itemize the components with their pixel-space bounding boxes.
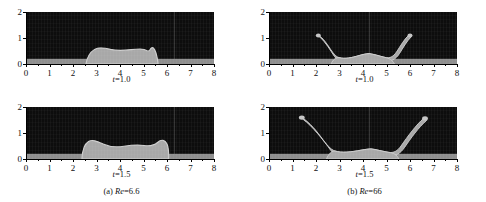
x-minor-tick xyxy=(304,159,305,161)
y-tick-label: 1 xyxy=(256,33,265,43)
y-tick-label: 0 xyxy=(256,154,265,164)
y-tick xyxy=(23,38,26,39)
time-label-a-t15: t=1.5 xyxy=(0,169,243,179)
x-minor-tick xyxy=(304,64,305,66)
x-minor-tick xyxy=(155,159,156,161)
x-minor-tick xyxy=(445,159,446,161)
x-minor-tick xyxy=(85,64,86,66)
y-axis-b-t15 xyxy=(269,107,270,160)
x-tick xyxy=(191,64,192,67)
x-tick xyxy=(457,64,458,67)
reynolds-symbol: Re xyxy=(359,186,368,196)
y-axis-b-t1 xyxy=(269,12,270,65)
x-minor-tick xyxy=(179,159,180,161)
x-minor-tick xyxy=(328,159,329,161)
y-tick xyxy=(23,107,26,108)
x-tick xyxy=(363,64,364,67)
x-minor-tick xyxy=(61,159,62,161)
x-minor-tick xyxy=(132,64,133,66)
x-minor-tick xyxy=(351,64,352,66)
plot-a-t15: 0 1 2 0 1 xyxy=(26,107,214,159)
interface-a-t1 xyxy=(26,12,214,64)
plot-a-t1: 0 1 2 0 1 xyxy=(26,12,214,64)
x-minor-tick xyxy=(375,64,376,66)
x-minor-tick xyxy=(422,159,423,161)
reynolds-symbol: Re xyxy=(115,186,124,196)
x-minor-tick xyxy=(398,159,399,161)
x-minor-tick xyxy=(281,159,282,161)
x-minor-tick xyxy=(38,64,39,66)
x-tick xyxy=(293,64,294,67)
x-minor-tick xyxy=(38,159,39,161)
plot-area-b-t15 xyxy=(269,107,457,159)
figure-container: 0 1 2 0 1 xyxy=(0,0,486,202)
time-label-a-t1: t=1.0 xyxy=(0,74,243,84)
x-tick xyxy=(410,64,411,67)
panel-b-t15: 0 1 2 0 1 xyxy=(243,99,486,189)
x-tick xyxy=(269,64,270,67)
plot-area-a-t1 xyxy=(26,12,214,64)
y-tick-label: 2 xyxy=(256,102,265,112)
panel-a-t1: 0 1 2 0 1 xyxy=(0,4,243,94)
x-tick xyxy=(97,64,98,67)
y-tick-label: 0 xyxy=(13,59,22,69)
x-tick xyxy=(269,159,270,162)
time-value: =1.0 xyxy=(358,74,373,84)
x-tick xyxy=(387,64,388,67)
subcaption-b: (b) Re=66 xyxy=(243,186,486,196)
x-tick xyxy=(144,64,145,67)
plot-area-a-t15 xyxy=(26,107,214,159)
time-value: =1.5 xyxy=(358,169,373,179)
y-tick xyxy=(266,133,269,134)
x-tick xyxy=(410,159,411,162)
time-label-b-t15: t=1.5 xyxy=(243,169,486,179)
x-minor-tick xyxy=(108,64,109,66)
y-tick xyxy=(266,107,269,108)
interface-b-t1 xyxy=(269,12,457,64)
x-minor-tick xyxy=(85,159,86,161)
x-tick xyxy=(120,64,121,67)
x-tick xyxy=(363,159,364,162)
subcaption-a: (a) Re=6.6 xyxy=(0,186,243,196)
x-tick xyxy=(26,159,27,162)
x-minor-tick xyxy=(155,64,156,66)
x-minor-tick xyxy=(179,64,180,66)
x-minor-tick xyxy=(398,64,399,66)
reynolds-value: =6.6 xyxy=(124,186,139,196)
panel-a-t15: 0 1 2 0 1 xyxy=(0,99,243,189)
x-minor-tick xyxy=(281,64,282,66)
y-axis-a-t1 xyxy=(26,12,27,65)
y-tick-label: 1 xyxy=(13,33,22,43)
x-tick xyxy=(191,159,192,162)
x-tick xyxy=(144,159,145,162)
time-label-b-t1: t=1.0 xyxy=(243,74,486,84)
x-tick xyxy=(167,159,168,162)
subcaption-tag: (a) xyxy=(104,186,116,196)
x-minor-tick xyxy=(375,159,376,161)
x-tick xyxy=(167,64,168,67)
x-minor-tick xyxy=(202,64,203,66)
y-tick-label: 2 xyxy=(13,7,22,17)
x-minor-tick xyxy=(351,159,352,161)
y-tick xyxy=(23,133,26,134)
x-tick xyxy=(316,64,317,67)
y-tick-label: 1 xyxy=(256,128,265,138)
figure-column-a: 0 1 2 0 1 xyxy=(0,0,243,202)
x-tick xyxy=(97,159,98,162)
x-tick xyxy=(214,159,215,162)
x-tick xyxy=(457,159,458,162)
reynolds-value: =66 xyxy=(368,186,381,196)
time-value: =1.0 xyxy=(115,74,130,84)
y-tick-label: 1 xyxy=(13,128,22,138)
plot-b-t15: 0 1 2 0 1 xyxy=(269,107,457,159)
y-tick xyxy=(266,12,269,13)
y-tick-label: 2 xyxy=(256,7,265,17)
x-minor-tick xyxy=(328,64,329,66)
y-axis-a-t15 xyxy=(26,107,27,160)
x-minor-tick xyxy=(422,64,423,66)
x-minor-tick xyxy=(445,64,446,66)
x-minor-tick xyxy=(61,64,62,66)
x-tick xyxy=(293,159,294,162)
interface-a-t15 xyxy=(26,107,214,159)
x-minor-tick xyxy=(202,159,203,161)
